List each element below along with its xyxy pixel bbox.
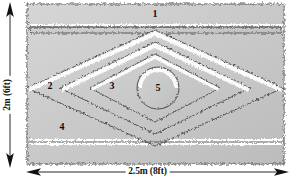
- plan-figure: 1 2 3 4 5 2.5m (8ft) 2m (6ft): [0, 0, 295, 190]
- plan-drawing: [0, 0, 295, 190]
- vertical-dimension-label: 2m (6ft): [2, 76, 13, 114]
- zone-label-2: 2: [48, 81, 53, 91]
- zone-label-4: 4: [60, 122, 65, 132]
- zone-label-3: 3: [110, 81, 115, 91]
- zone-label-1: 1: [153, 9, 158, 19]
- zone-label-5: 5: [156, 83, 161, 93]
- horizontal-dimension-label: 2.5m (8ft): [125, 166, 170, 177]
